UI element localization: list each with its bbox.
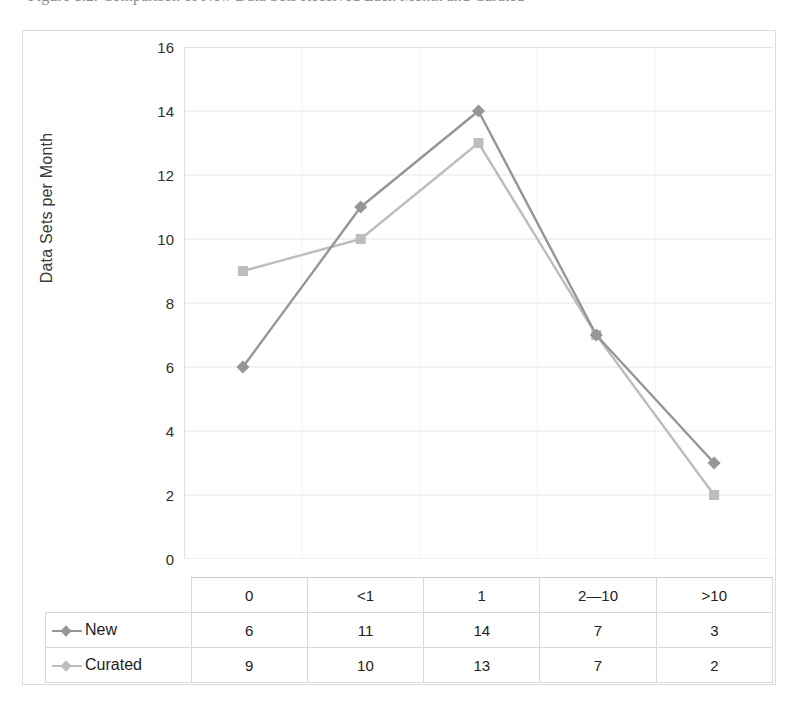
table-row: New6111473 (46, 613, 773, 648)
series-line-new (243, 111, 714, 463)
x-axis-category-label: 1 (424, 578, 540, 613)
table-cell-value: 13 (424, 648, 540, 683)
x-axis-category-label: >10 (656, 578, 772, 613)
data-point-marker (356, 234, 366, 244)
table-cell-value: 7 (540, 613, 656, 648)
table-cell-value: 7 (540, 648, 656, 683)
plot-area (184, 47, 773, 559)
line-chart-svg (184, 47, 773, 559)
legend-label: New (85, 622, 117, 639)
data-table: 0<112—10>10New6111473Curated9101372 (45, 577, 773, 683)
y-tick-label: 14 (134, 103, 174, 120)
table-cell-value: 2 (656, 648, 772, 683)
data-table-body: 0<112—10>10New6111473Curated9101372 (46, 578, 773, 683)
legend-row-curated: Curated (46, 648, 192, 683)
table-cell-value: 9 (191, 648, 307, 683)
data-point-marker (709, 490, 719, 500)
table-row: Curated9101372 (46, 648, 773, 683)
y-tick-label: 0 (134, 551, 174, 568)
legend-row-new: New (46, 613, 192, 648)
x-axis-category-label: 0 (191, 578, 307, 613)
table-cell-value: 6 (191, 613, 307, 648)
legend-marker-icon (52, 625, 82, 637)
y-tick-label: 6 (134, 359, 174, 376)
table-cell-value: 11 (307, 613, 423, 648)
x-axis-category-label: 2—10 (540, 578, 656, 613)
y-axis-title: Data Sets per Month (38, 88, 56, 328)
legend-label: Curated (85, 657, 142, 674)
figure-caption-cropped: Figure 1.2. Comparison of New Data Sets … (0, 0, 812, 12)
legend-marker-icon (52, 660, 82, 672)
x-axis-category-label: <1 (307, 578, 423, 613)
table-cell-value: 14 (424, 613, 540, 648)
table-cell-value: 10 (307, 648, 423, 683)
chart-frame: Data Sets per Month 1614121086420 0<112—… (22, 30, 776, 685)
data-point-marker (474, 138, 484, 148)
y-tick-label: 12 (134, 167, 174, 184)
y-tick-label: 16 (134, 39, 174, 56)
y-tick-label: 10 (134, 231, 174, 248)
data-point-marker (238, 266, 248, 276)
figure-caption-text: Figure 1.2. Comparison of New Data Sets … (28, 0, 524, 5)
y-tick-label: 8 (134, 295, 174, 312)
series-line-curated (243, 143, 714, 495)
y-axis-tick-labels: 1614121086420 (128, 47, 174, 559)
table-cell-value: 3 (656, 613, 772, 648)
table-header-row: 0<112—10>10 (46, 578, 773, 613)
y-tick-label: 4 (134, 423, 174, 440)
y-tick-label: 2 (134, 487, 174, 504)
table-corner-cell (46, 578, 192, 613)
